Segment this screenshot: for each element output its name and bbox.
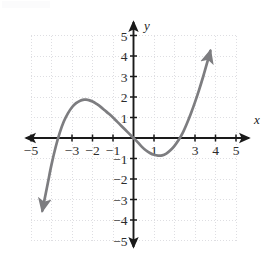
y-tick-label: 1 xyxy=(121,111,128,126)
x-tick-label: −2 xyxy=(85,143,99,158)
x-tick-label: 3 xyxy=(192,143,199,158)
coordinate-plane: −5−3−2−11345−5−4−3−2−112345 x y xyxy=(0,0,271,271)
y-tick-label: −2 xyxy=(113,172,127,187)
x-tick-label: 5 xyxy=(233,143,240,158)
y-tick-label: 5 xyxy=(121,29,128,44)
y-tick-label: −3 xyxy=(113,193,128,208)
x-tick-label: 4 xyxy=(212,143,219,158)
y-tick-label: 2 xyxy=(121,90,128,105)
y-tick-label: −5 xyxy=(113,234,128,249)
graph-figure: −5−3−2−11345−5−4−3−2−112345 x y xyxy=(0,0,271,271)
y-tick-label: 4 xyxy=(121,49,128,64)
x-axis-label: x xyxy=(253,112,260,127)
x-tick-label: −5 xyxy=(24,143,39,158)
x-tick-label: −3 xyxy=(65,143,80,158)
y-tick-label: −4 xyxy=(113,213,128,228)
y-tick-label: 3 xyxy=(121,70,128,85)
y-axis-label: y xyxy=(142,18,150,33)
y-tick-label: −1 xyxy=(113,152,127,167)
